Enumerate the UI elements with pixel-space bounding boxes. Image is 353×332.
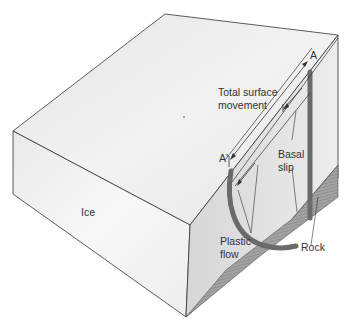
label-plastic-flow-2: flow [220,248,239,260]
label-total-surface-movement-1: Total surface [218,86,278,98]
label-plastic-flow-1: Plastic [220,235,251,247]
label-ice: Ice [81,206,95,218]
label-basal-slip-1: Basal [278,148,304,160]
label-point-a: A [310,49,317,61]
surface-speck [183,116,185,118]
label-point-a-prime: A' [219,152,228,164]
label-total-surface-movement-2: movement [218,99,267,111]
label-basal-slip-2: slip [278,161,294,173]
label-rock: Rock [301,241,326,253]
glacier-block-diagram: A A' Total surface movement Basal slip P… [0,0,353,332]
